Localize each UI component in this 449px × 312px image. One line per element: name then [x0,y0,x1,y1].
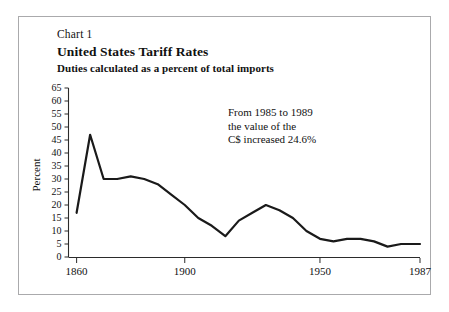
y-tick-label: 30 [52,173,62,184]
y-tick-label: 65 [52,82,62,93]
chart-figure: Chart 1 United States Tariff Rates Dutie… [0,0,449,312]
y-tick-labels: 05101520253035404550556065 [52,82,62,262]
y-tick-label: 40 [52,147,62,158]
y-tick-label: 25 [52,186,62,197]
x-axis: 1860190019501987 [66,258,432,278]
y-tick-label: 55 [52,108,62,119]
x-tick-labels: 1860190019501987 [66,265,432,277]
x-tick-label: 1987 [409,265,432,277]
y-tick-label: 60 [52,95,62,106]
x-tick-label: 1900 [174,265,197,277]
y-tick-label: 5 [57,238,62,249]
x-tick-label: 1860 [66,265,89,277]
y-tick-label: 15 [52,212,62,223]
y-tick-label: 50 [52,121,62,132]
x-tick-marks [77,258,420,263]
y-tick-label: 20 [52,199,62,210]
y-tick-marks [65,88,69,257]
y-tick-label: 10 [52,225,62,236]
x-tick-label: 1950 [309,265,332,277]
tariff-rate-line [77,135,420,247]
y-axis: 05101520253035404550556065 Percent [30,82,69,262]
y-tick-label: 45 [52,134,62,145]
y-axis-title: Percent [30,159,42,192]
y-tick-label: 0 [57,251,62,262]
plot-area: 05101520253035404550556065 Percent 18601… [0,0,449,312]
y-tick-label: 35 [52,160,62,171]
